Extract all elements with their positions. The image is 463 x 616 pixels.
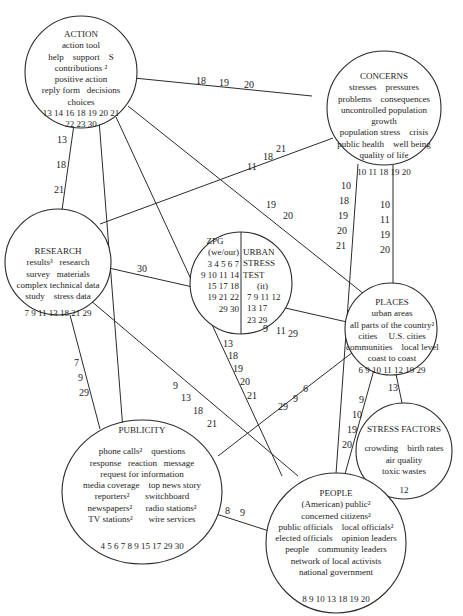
node-people: PEOPLE (American) public² concerned citi… bbox=[271, 488, 401, 606]
node-codes: 7 9 11 13 18 21 29 bbox=[8, 308, 108, 319]
node-term: coast to coast bbox=[346, 353, 438, 364]
node-term: newspapers² radio stations² bbox=[77, 503, 207, 514]
node-title: RESEARCH bbox=[8, 246, 108, 257]
node-term: crowding birth rates bbox=[359, 443, 449, 454]
node-term: national government bbox=[271, 567, 401, 578]
node-term: all parts of the country² bbox=[346, 320, 438, 331]
edge-research-publicity bbox=[70, 315, 100, 429]
edge-label: 18 bbox=[193, 405, 203, 416]
node-codes: 13 14 16 18 19 20 21 bbox=[31, 108, 131, 119]
node-term: TV stations² wire services bbox=[77, 514, 207, 525]
node-codes: 13 17 bbox=[243, 303, 293, 314]
edge-label: 18 bbox=[263, 151, 273, 162]
node-term: response reaction message bbox=[77, 458, 207, 469]
node-term: network of local activists bbox=[271, 556, 401, 567]
edge-label: 19 bbox=[266, 199, 276, 210]
node-title: STRESS FACTORS bbox=[359, 424, 449, 435]
node-term: toxic wastes bbox=[359, 466, 449, 477]
edge-label: 11 bbox=[276, 325, 286, 336]
edge-label: 20 bbox=[240, 376, 250, 387]
node-term: positive action bbox=[31, 74, 131, 85]
node-term: study stress data bbox=[8, 291, 108, 302]
node-term: quality of life bbox=[329, 150, 439, 161]
edge-label: 8 bbox=[225, 505, 230, 516]
edge-label: 11 bbox=[380, 214, 390, 225]
node-codes: 9 10 11 14 bbox=[191, 270, 239, 281]
node-research: RESEARCH results³ research survey materi… bbox=[8, 246, 108, 320]
node-term: uncontrolled population bbox=[329, 105, 439, 116]
node-term: public officials local officials² bbox=[271, 522, 401, 533]
node-title: PLACES bbox=[346, 297, 438, 308]
node-term: growth bbox=[329, 116, 439, 127]
edge-label: 9 bbox=[293, 393, 298, 404]
node-term: STRESS bbox=[243, 258, 293, 269]
node-term: help support S bbox=[31, 52, 131, 63]
edge-label: 20 bbox=[337, 225, 347, 236]
node-term: request for information bbox=[77, 469, 207, 480]
edge-label: 18 bbox=[56, 159, 66, 170]
edge-label: 9 bbox=[173, 380, 178, 391]
node-term: elected officials opinion leaders bbox=[271, 533, 401, 544]
node-title: URBAN bbox=[243, 247, 293, 258]
node-term: complex technical data bbox=[8, 280, 108, 291]
node-action: ACTION action tool help support S contri… bbox=[31, 29, 131, 131]
edge-label: 10 bbox=[380, 199, 390, 210]
node-term: stresses pressures bbox=[329, 82, 439, 93]
node-codes: 19 21 22 bbox=[191, 292, 239, 303]
edge-label: 21 bbox=[207, 418, 217, 429]
node-urban-stress-test: URBAN STRESS TEST (it) 7 9 11 12 13 17 2… bbox=[243, 247, 293, 326]
edge-label: 9 bbox=[240, 507, 245, 518]
edge-label: 13 bbox=[388, 382, 398, 393]
node-codes: 6 9 10 11 12 19 29 bbox=[346, 365, 438, 376]
edge-label: 20 bbox=[380, 244, 390, 255]
edge-label: 13 bbox=[181, 392, 191, 403]
node-term: results³ research bbox=[8, 257, 108, 268]
node-title: ACTION bbox=[31, 29, 131, 40]
node-codes: 10 11 18 19 20 bbox=[329, 167, 439, 178]
node-term: urban areas bbox=[346, 308, 438, 319]
edge-label: 11 bbox=[247, 161, 257, 172]
edge-label: 18 bbox=[228, 350, 238, 361]
edge-label: 19 bbox=[347, 424, 357, 435]
node-places: PLACES urban areas all parts of the coun… bbox=[346, 297, 438, 376]
edge-label: 13 bbox=[223, 338, 233, 349]
edge-label: 18 bbox=[196, 75, 206, 86]
edge-label: 13 bbox=[57, 134, 67, 145]
node-codes: 3 4 5 6 7 bbox=[191, 259, 239, 270]
node-title: ZPG bbox=[191, 236, 239, 247]
node-codes: 15 17 18 bbox=[191, 281, 239, 292]
node-title: PEOPLE bbox=[271, 488, 401, 499]
node-term: problems consequences bbox=[329, 94, 439, 105]
node-term: concerned citizens² bbox=[271, 511, 401, 522]
node-codes: 4 5 6 7 8 9 15 17 29 30 bbox=[77, 541, 207, 552]
edge-label: 19 bbox=[219, 77, 229, 88]
node-codes: 7 9 11 12 bbox=[243, 292, 293, 303]
node-publicity: PUBLICITY phone calls² questions respons… bbox=[77, 425, 207, 553]
node-term: action tool bbox=[31, 40, 131, 51]
edge-label: 10 bbox=[352, 409, 362, 420]
node-codes: 8 9 10 13 18 19 20 bbox=[271, 594, 401, 605]
node-term: communities local level bbox=[346, 342, 438, 353]
node-codes: 22 23 30 bbox=[31, 119, 131, 130]
node-term: reporters² switchboard bbox=[77, 491, 207, 502]
node-zpg: ZPG (we/our) 3 4 5 6 7 9 10 11 14 15 17 … bbox=[191, 236, 239, 315]
edge-label: 21 bbox=[336, 240, 346, 251]
edge-label: 7 bbox=[74, 357, 79, 368]
node-term: public health well being bbox=[329, 139, 439, 150]
edge-label: 9 bbox=[78, 372, 83, 383]
edge-label: 21 bbox=[54, 184, 64, 195]
node-term: (American) public² bbox=[271, 499, 401, 510]
node-term: (it) bbox=[243, 281, 293, 292]
node-term: survey materials bbox=[8, 269, 108, 280]
node-term: cities U.S. cities bbox=[346, 331, 438, 342]
node-title: CONCERNS bbox=[329, 71, 439, 82]
node-term: phone calls² questions bbox=[77, 446, 207, 457]
edge-label: 19 bbox=[338, 210, 348, 221]
edge-label: 19 bbox=[380, 229, 390, 240]
edge-label: 20 bbox=[283, 210, 293, 221]
node-term: people community leaders bbox=[271, 544, 401, 555]
edge-label: 29 bbox=[79, 387, 89, 398]
edge-label: 21 bbox=[276, 143, 286, 154]
node-term: population stress crisis bbox=[329, 127, 439, 138]
edge-label: 6 bbox=[303, 383, 308, 394]
